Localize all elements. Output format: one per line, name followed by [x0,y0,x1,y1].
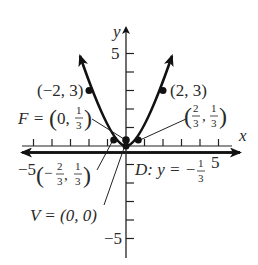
y-tick-label-pos5: 5 [111,44,120,63]
directrix-den: 3 [198,172,204,184]
point-vertex [123,143,130,150]
label-left-latus: ( − 2 3 , 1 3 ) [36,160,91,188]
rlr-num2: 1 [211,102,217,114]
point-left-latus [110,137,117,144]
label-right-latus: ( 2 3 , 1 3 ) [184,102,227,129]
rlr-comma: , [202,108,206,124]
focus-prefix: F = [17,109,44,128]
directrix-num: 1 [198,157,204,169]
llr-den2: 3 [75,175,81,187]
focus-den: 3 [76,119,82,131]
y-tick-label-neg5: −5 [104,229,122,248]
label-point-2-3: (2, 3) [170,81,207,100]
llr-comma: , [64,167,68,183]
parabola-graph: x y −5 5 5 −5 [0,0,258,265]
point-neg2-3 [86,87,93,94]
directrix-prefix: D: y = − [134,160,196,179]
llr-minus: − [44,165,52,181]
focus-num: 1 [76,104,82,116]
focus-paren-close: ) [84,105,92,131]
llr-paren-open: ( [36,162,44,188]
focus-x: 0, [57,109,70,128]
llr-num2: 1 [75,160,81,172]
point-right-latus [135,137,142,144]
label-focus: F = ( 0, 1 3 ) [17,104,92,131]
x-tick-label-neg5: −5 [18,160,36,179]
focus-paren-open: ( [49,105,57,131]
rlr-paren-close: ) [219,103,227,129]
rlr-den1: 3 [193,117,199,129]
point-2-3 [160,87,167,94]
x-axis-label: x [238,126,247,145]
rlr-den2: 3 [211,117,217,129]
llr-paren-close: ) [83,162,91,188]
label-directrix: D: y = − 1 3 [134,157,205,184]
rlr-num1: 2 [193,102,199,114]
x-tick-label-pos5: 5 [211,153,220,172]
label-point-neg2-3: (−2, 3) [37,81,83,100]
y-axis-label: y [111,22,121,41]
label-vertex: V = (0, 0) [30,206,97,225]
llr-num1: 2 [57,160,63,172]
llr-den1: 3 [57,175,63,187]
rlr-paren-open: ( [184,103,192,129]
